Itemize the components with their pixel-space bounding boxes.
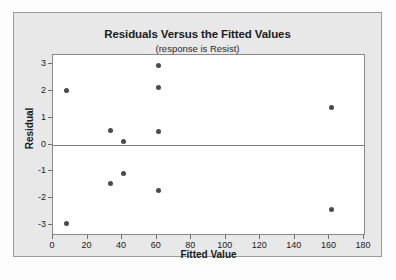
y-axis-tick-label: 2	[41, 85, 46, 95]
y-axis-tick-label: -2	[38, 192, 46, 202]
data-point	[156, 85, 161, 90]
x-axis-tick	[294, 235, 295, 239]
data-point	[156, 63, 161, 68]
y-axis-tick-label: 0	[41, 139, 46, 149]
data-point	[108, 128, 113, 133]
data-point	[156, 188, 161, 193]
data-point	[64, 88, 69, 93]
zero-reference-line	[53, 145, 364, 146]
data-point	[329, 105, 334, 110]
x-axis-tick	[52, 235, 53, 239]
x-axis-tick	[156, 235, 157, 239]
x-axis-tick	[225, 235, 226, 239]
x-axis-tick	[363, 235, 364, 239]
data-point	[329, 207, 334, 212]
data-point	[121, 171, 126, 176]
x-axis-tick	[328, 235, 329, 239]
data-point	[121, 139, 126, 144]
x-axis-tick	[121, 235, 122, 239]
chart-subtitle: (response is Resist)	[14, 43, 381, 54]
x-axis-title: Fitted Value	[52, 249, 365, 260]
plot-area	[52, 54, 365, 235]
x-axis-tick	[190, 235, 191, 239]
data-point	[108, 181, 113, 186]
y-axis: 3210-1-2-3	[14, 54, 52, 235]
y-axis-tick-label: 1	[41, 112, 46, 122]
y-axis-tick-label: -1	[38, 165, 46, 175]
y-axis-tick-label: -3	[38, 219, 46, 229]
x-axis-tick	[87, 235, 88, 239]
chart-panel: Residuals Versus the Fitted Values (resp…	[13, 12, 382, 257]
data-point	[156, 129, 161, 134]
y-axis-tick-label: 3	[41, 58, 46, 68]
x-axis-tick	[259, 235, 260, 239]
data-point	[64, 221, 69, 226]
chart-title: Residuals Versus the Fitted Values	[14, 28, 381, 40]
